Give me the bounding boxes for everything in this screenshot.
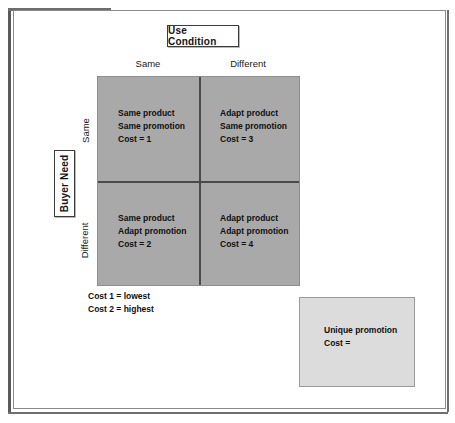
matrix-cell-line: Adapt promotion: [220, 225, 315, 238]
buyer-need-title-label: Buyer Need: [59, 155, 70, 213]
unique-promotion-cost: Cost =: [324, 337, 416, 350]
row-header-different: Different: [78, 212, 92, 268]
two-by-two-matrix: Same product Same promotion Cost = 1 Ada…: [97, 76, 300, 286]
matrix-cell-line: Same product: [118, 107, 213, 120]
diagram-page: Use Condition Buyer Need Same Different …: [0, 0, 455, 423]
matrix-cell-cost: Cost = 2: [118, 238, 213, 251]
page-frame-right-border: [447, 10, 449, 412]
cost-legend-line-highest: Cost 2 = highest: [88, 303, 154, 316]
matrix-cell-cost: Cost = 4: [220, 238, 315, 251]
unique-promotion-box: Unique promotion Cost =: [299, 297, 415, 387]
column-header-same: Same: [108, 58, 188, 69]
matrix-cell-different-different: Adapt product Adapt promotion Cost = 4: [220, 212, 315, 251]
matrix-cell-line: Adapt product: [220, 107, 315, 120]
page-frame-left-border: [8, 8, 11, 412]
matrix-cell-line: Same promotion: [118, 120, 213, 133]
matrix-cell-line: Same promotion: [220, 120, 315, 133]
matrix-cell-different-same: Adapt product Same promotion Cost = 3: [220, 107, 315, 146]
matrix-cell-line: Adapt promotion: [118, 225, 213, 238]
cost-legend: Cost 1 = lowest Cost 2 = highest: [88, 290, 154, 316]
use-condition-title-box: Use Condition: [167, 25, 239, 47]
matrix-cell-same-different: Same product Adapt promotion Cost = 2: [118, 212, 213, 251]
row-header-same-label: Same: [80, 118, 91, 143]
use-condition-title-label: Use Condition: [168, 25, 238, 47]
matrix-cell-line: Same product: [118, 212, 213, 225]
matrix-cell-line: Adapt product: [220, 212, 315, 225]
cost-legend-line-lowest: Cost 1 = lowest: [88, 290, 154, 303]
row-header-different-label: Different: [80, 222, 91, 258]
matrix-cell-cost: Cost = 1: [118, 133, 213, 146]
page-frame-bottom-border: [8, 412, 448, 414]
column-header-different: Different: [208, 58, 288, 69]
matrix-horizontal-divider: [98, 181, 299, 183]
matrix-cell-same-same: Same product Same promotion Cost = 1: [118, 107, 213, 146]
buyer-need-title-box: Buyer Need: [54, 150, 75, 217]
unique-promotion-text: Unique promotion Cost =: [324, 324, 416, 350]
row-header-same: Same: [78, 105, 92, 155]
matrix-cell-cost: Cost = 3: [220, 133, 315, 146]
unique-promotion-line: Unique promotion: [324, 324, 416, 337]
